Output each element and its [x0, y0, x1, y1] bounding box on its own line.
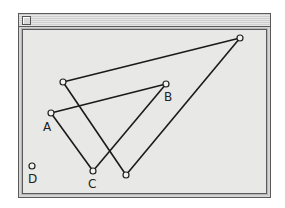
segment-p2-p3[interactable]: [126, 38, 240, 175]
point-c[interactable]: [90, 168, 96, 174]
label-b: B: [164, 90, 172, 104]
point-d[interactable]: [29, 163, 35, 169]
segment-c-a[interactable]: [51, 113, 93, 171]
point-p3[interactable]: [123, 172, 129, 178]
label-a: A: [43, 120, 52, 134]
label-d: D: [28, 172, 37, 186]
point-b[interactable]: [163, 81, 169, 87]
point-p1[interactable]: [60, 79, 66, 85]
label-c: C: [88, 177, 96, 191]
point-p2[interactable]: [237, 35, 243, 41]
segment-b-c[interactable]: [93, 84, 166, 171]
segment-p1-p2[interactable]: [63, 38, 240, 82]
geometry-canvas[interactable]: A B C D: [0, 0, 285, 208]
point-a[interactable]: [48, 110, 54, 116]
